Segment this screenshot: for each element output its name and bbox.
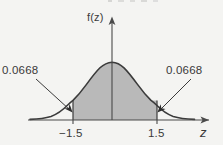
x-axis-label: z [199,125,207,140]
distribution-plot-canvas: f(z) z 0.0668 0.0668 −1.5 1.5 [0,0,223,145]
x-tick-label-negative-1-5: −1.5 [59,127,83,139]
right-tail-probability-label: 0.0668 [166,64,202,76]
left-tail-probability-label: 0.0668 [2,64,38,76]
y-axis-label: f(z) [87,11,104,23]
x-tick-label-positive-1-5: 1.5 [148,127,165,139]
normal-distribution-figure: f(z) z 0.0668 0.0668 −1.5 1.5 [0,0,223,145]
